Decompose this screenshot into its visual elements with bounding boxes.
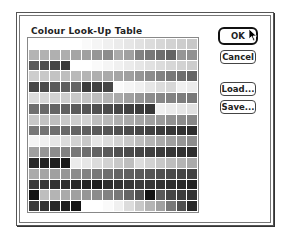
- lut-cell[interactable]: [124, 158, 134, 168]
- lut-cell[interactable]: [114, 39, 124, 49]
- lut-cell[interactable]: [103, 180, 113, 190]
- lut-cell[interactable]: [145, 50, 155, 60]
- lut-cell[interactable]: [156, 104, 166, 114]
- lut-cell[interactable]: [166, 147, 176, 157]
- lut-cell[interactable]: [177, 115, 187, 125]
- lut-cell[interactable]: [82, 50, 92, 60]
- lut-cell[interactable]: [92, 136, 102, 146]
- lut-cell[interactable]: [135, 136, 145, 146]
- lut-cell[interactable]: [166, 93, 176, 103]
- lut-cell[interactable]: [187, 136, 197, 146]
- lut-cell[interactable]: [71, 158, 81, 168]
- lut-cell[interactable]: [103, 93, 113, 103]
- lut-cell[interactable]: [187, 104, 197, 114]
- lut-cell[interactable]: [50, 136, 60, 146]
- lut-cell[interactable]: [40, 147, 50, 157]
- lut-cell[interactable]: [82, 158, 92, 168]
- lut-cell[interactable]: [103, 50, 113, 60]
- lut-cell[interactable]: [156, 39, 166, 49]
- lut-cell[interactable]: [82, 126, 92, 136]
- lut-cell[interactable]: [124, 39, 134, 49]
- lut-cell[interactable]: [114, 61, 124, 71]
- lut-cell[interactable]: [124, 147, 134, 157]
- lut-cell[interactable]: [166, 136, 176, 146]
- lut-cell[interactable]: [187, 201, 197, 211]
- lut-cell[interactable]: [135, 82, 145, 92]
- lut-cell[interactable]: [29, 82, 39, 92]
- lut-cell[interactable]: [156, 71, 166, 81]
- lut-cell[interactable]: [61, 136, 71, 146]
- lut-cell[interactable]: [61, 61, 71, 71]
- lut-cell[interactable]: [145, 180, 155, 190]
- load-button[interactable]: Load...: [220, 82, 256, 96]
- lut-cell[interactable]: [124, 126, 134, 136]
- lut-cell[interactable]: [156, 158, 166, 168]
- lut-cell[interactable]: [177, 104, 187, 114]
- lut-cell[interactable]: [40, 39, 50, 49]
- lut-cell[interactable]: [103, 61, 113, 71]
- lut-cell[interactable]: [40, 136, 50, 146]
- lut-cell[interactable]: [177, 82, 187, 92]
- lut-cell[interactable]: [29, 71, 39, 81]
- lut-cell[interactable]: [135, 147, 145, 157]
- lut-cell[interactable]: [135, 169, 145, 179]
- lut-cell[interactable]: [71, 61, 81, 71]
- lut-cell[interactable]: [103, 201, 113, 211]
- lut-cell[interactable]: [145, 190, 155, 200]
- lut-cell[interactable]: [71, 93, 81, 103]
- lut-cell[interactable]: [50, 115, 60, 125]
- lut-cell[interactable]: [177, 190, 187, 200]
- lut-cell[interactable]: [92, 104, 102, 114]
- lut-cell[interactable]: [61, 147, 71, 157]
- lut-cell[interactable]: [135, 115, 145, 125]
- lut-cell[interactable]: [92, 61, 102, 71]
- lut-cell[interactable]: [61, 71, 71, 81]
- lut-cell[interactable]: [103, 126, 113, 136]
- lut-cell[interactable]: [29, 169, 39, 179]
- lut-cell[interactable]: [92, 190, 102, 200]
- lut-cell[interactable]: [40, 115, 50, 125]
- colour-lut-grid[interactable]: [27, 37, 199, 213]
- lut-cell[interactable]: [29, 180, 39, 190]
- lut-cell[interactable]: [177, 136, 187, 146]
- lut-cell[interactable]: [50, 201, 60, 211]
- lut-cell[interactable]: [92, 180, 102, 190]
- lut-cell[interactable]: [103, 169, 113, 179]
- lut-cell[interactable]: [187, 158, 197, 168]
- lut-cell[interactable]: [177, 158, 187, 168]
- lut-cell[interactable]: [187, 180, 197, 190]
- lut-cell[interactable]: [124, 82, 134, 92]
- lut-cell[interactable]: [61, 180, 71, 190]
- lut-cell[interactable]: [156, 169, 166, 179]
- lut-cell[interactable]: [135, 190, 145, 200]
- lut-cell[interactable]: [145, 201, 155, 211]
- lut-cell[interactable]: [82, 115, 92, 125]
- lut-cell[interactable]: [103, 136, 113, 146]
- lut-cell[interactable]: [187, 93, 197, 103]
- save-button[interactable]: Save...: [220, 100, 256, 114]
- lut-cell[interactable]: [61, 104, 71, 114]
- lut-cell[interactable]: [92, 93, 102, 103]
- lut-cell[interactable]: [92, 169, 102, 179]
- lut-cell[interactable]: [50, 61, 60, 71]
- lut-cell[interactable]: [156, 136, 166, 146]
- lut-cell[interactable]: [61, 93, 71, 103]
- lut-cell[interactable]: [114, 93, 124, 103]
- lut-cell[interactable]: [114, 158, 124, 168]
- lut-cell[interactable]: [177, 126, 187, 136]
- lut-cell[interactable]: [92, 201, 102, 211]
- lut-cell[interactable]: [103, 115, 113, 125]
- lut-cell[interactable]: [71, 115, 81, 125]
- lut-cell[interactable]: [156, 190, 166, 200]
- lut-cell[interactable]: [145, 39, 155, 49]
- lut-cell[interactable]: [114, 190, 124, 200]
- lut-cell[interactable]: [124, 50, 134, 60]
- lut-cell[interactable]: [124, 71, 134, 81]
- lut-cell[interactable]: [124, 136, 134, 146]
- lut-cell[interactable]: [177, 201, 187, 211]
- lut-cell[interactable]: [124, 169, 134, 179]
- lut-cell[interactable]: [145, 71, 155, 81]
- lut-cell[interactable]: [135, 126, 145, 136]
- lut-cell[interactable]: [71, 169, 81, 179]
- lut-cell[interactable]: [92, 82, 102, 92]
